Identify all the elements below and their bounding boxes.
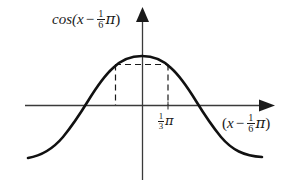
x-axis-label-fraction: 16 — [247, 113, 255, 135]
y-axis — [136, 7, 149, 180]
plot-canvas — [0, 0, 290, 193]
x-axis-label-minus: − — [234, 115, 247, 131]
x-axis-label-variable: x — [227, 115, 234, 131]
cosine-curve — [28, 56, 262, 158]
x-axis-label-fraction-denominator: 6 — [247, 124, 255, 134]
cosine-function-plot: cos(x−16π) (x−16π) 13π — [0, 0, 290, 193]
x-tick-label-pi-over-3: 13π — [157, 112, 173, 131]
y-axis-label-variable: x — [77, 11, 84, 27]
y-axis-label-close-paren: ) — [115, 11, 120, 27]
x-tick-label-fraction-denominator: 3 — [158, 122, 165, 131]
x-axis-label: (x−16π) — [222, 113, 270, 135]
y-axis-label-fraction-denominator: 6 — [97, 20, 105, 30]
y-axis-label-pi: π — [105, 10, 115, 28]
y-axis-label-minus: − — [84, 11, 97, 27]
x-axis — [25, 100, 275, 112]
x-tick-label-fraction: 13 — [158, 112, 165, 131]
y-axis-label-cos: cos( — [52, 11, 77, 27]
y-axis-label-fraction: 16 — [97, 9, 105, 31]
x-tick-label-pi: π — [165, 113, 174, 128]
y-axis-arrowhead — [136, 7, 149, 22]
y-axis-label: cos(x−16π) — [52, 9, 120, 31]
x-axis-label-close-paren: ) — [265, 115, 270, 131]
x-axis-label-pi: π — [255, 114, 265, 132]
x-axis-arrowhead — [259, 100, 275, 112]
